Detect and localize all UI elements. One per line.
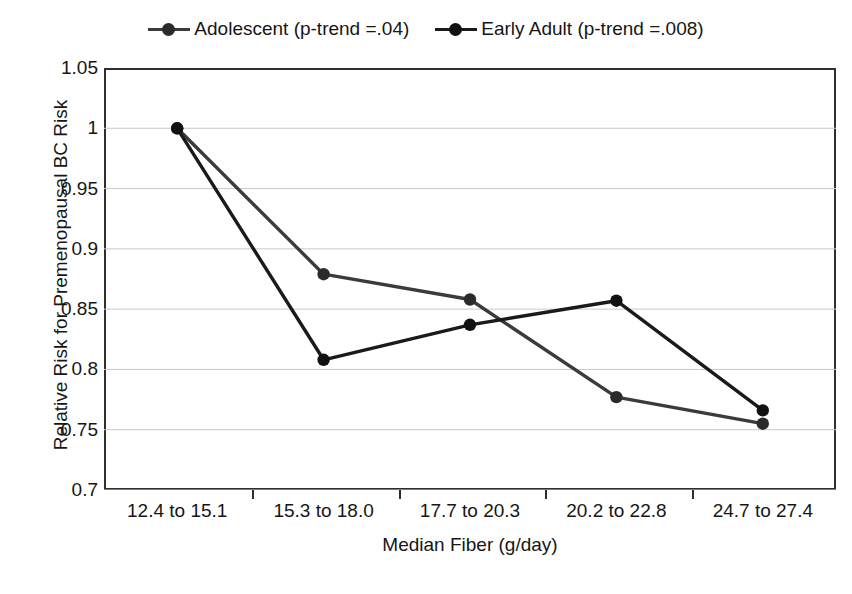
y-axis-title: Relative Risk for Premenopausal BC Risk: [50, 65, 72, 485]
legend-label-adolescent: Adolescent (p-trend =.04): [192, 18, 409, 40]
legend-marker-icon-early-adult: [435, 21, 477, 37]
data-series-layer: [171, 122, 769, 430]
data-series: [171, 122, 769, 430]
x-axis-tick-label: 20.2 to 22.8: [543, 500, 689, 528]
plot-canvas: [104, 68, 836, 490]
series-line: [177, 128, 763, 423]
series-line: [177, 128, 763, 410]
legend-item-early-adult[interactable]: Early Adult (p-trend =.008): [435, 18, 703, 40]
x-axis-tick-labels: 12.4 to 15.115.3 to 18.017.7 to 20.320.2…: [104, 500, 836, 528]
x-axis-tick-mark: [692, 490, 694, 499]
data-point-marker[interactable]: [464, 293, 476, 305]
legend-marker-icon-adolescent: [148, 21, 190, 37]
x-axis-title: Median Fiber (g/day): [104, 534, 836, 556]
gridlines: [104, 128, 836, 490]
legend-item-adolescent[interactable]: Adolescent (p-trend =.04): [148, 18, 409, 40]
chart-figure: Adolescent (p-trend =.04) Early Adult (p…: [0, 0, 852, 594]
data-series: [171, 122, 769, 417]
x-axis-tick-label: 17.7 to 20.3: [397, 500, 543, 528]
x-axis-tick-label: 12.4 to 15.1: [104, 500, 250, 528]
x-axis-tick-mark: [252, 490, 254, 499]
data-point-marker[interactable]: [464, 319, 476, 331]
chart-legend: Adolescent (p-trend =.04) Early Adult (p…: [0, 18, 852, 40]
data-point-marker[interactable]: [317, 354, 329, 366]
data-point-marker[interactable]: [757, 404, 769, 416]
x-axis-tick-label: 15.3 to 18.0: [250, 500, 396, 528]
data-point-marker[interactable]: [171, 122, 183, 134]
legend-label-early-adult: Early Adult (p-trend =.008): [479, 18, 703, 40]
x-axis-tick-mark: [399, 490, 401, 499]
data-point-marker[interactable]: [610, 391, 622, 403]
x-axis-tick-mark: [545, 490, 547, 499]
data-point-marker[interactable]: [317, 268, 329, 280]
data-point-marker[interactable]: [610, 295, 622, 307]
data-point-marker[interactable]: [757, 417, 769, 429]
x-axis-tick-label: 24.7 to 27.4: [690, 500, 836, 528]
